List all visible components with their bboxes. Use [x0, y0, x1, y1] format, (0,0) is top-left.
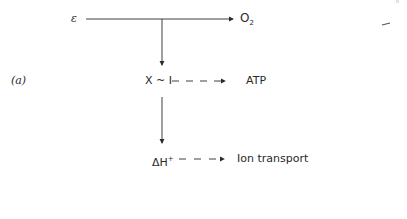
proton-gradient-label: ΔH+ [152, 153, 174, 169]
diagram-arrows [0, 0, 407, 219]
intermediate-label: X ~ I [145, 75, 172, 87]
oxygen-subscript: 2 [249, 19, 253, 27]
ion-transport-label: Ion transport [237, 153, 308, 165]
stray-mark [382, 23, 390, 25]
panel-label: (a) [11, 75, 26, 87]
proton-gradient-symbol: ΔH [152, 156, 168, 169]
source-label: ε [71, 13, 77, 25]
proton-gradient-superscript: + [168, 155, 174, 163]
panel-label-text: (a) [11, 74, 26, 87]
atp-label: ATP [246, 75, 266, 87]
page-fragment: ᵢᵢ [396, 0, 399, 7]
oxygen-label: O2 [240, 12, 254, 29]
